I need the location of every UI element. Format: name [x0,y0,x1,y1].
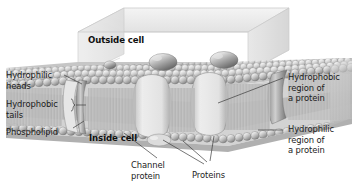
surface-sphere-small [104,61,116,69]
surface-sphere-left [149,54,177,71]
peripheral-protein [147,134,171,146]
inside-cell-label: Inside cell [89,133,137,143]
callout-phospholipid: Phospholipid [6,127,58,138]
surface-sphere-right [210,52,238,69]
callout-hydrophilic-region: Hydrophilic region of a protein [288,124,334,156]
callout-hydrophobic-tails: Hydrophobic tails [6,99,58,120]
integral-protein-center [133,75,172,138]
outside-cell-label: Outside cell [88,35,144,45]
callout-hydrophobic-region: Hydrophobic region of a protein [288,72,340,104]
callout-channel-protein: Channel protein [131,160,165,181]
figure-canvas: Outside cell Inside cell Hydrophilic hea… [0,0,358,196]
callout-hydrophilic-heads: Hydrophilic heads [6,70,52,91]
callout-proteins: Proteins [192,170,225,181]
integral-protein-right [191,73,229,136]
